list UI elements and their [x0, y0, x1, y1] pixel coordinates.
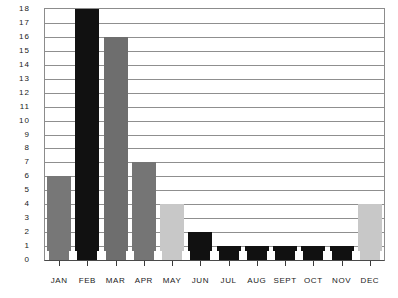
bar-base-notch — [97, 251, 99, 260]
bar-base-notch — [154, 251, 156, 260]
y-axis-tick-label: 5 — [0, 186, 30, 194]
y-axis-tick-label: 9 — [0, 131, 30, 139]
x-axis-tick — [370, 261, 371, 266]
bar-base-notch — [69, 251, 71, 260]
bar-base-notch — [323, 251, 325, 260]
bar-base-notch — [160, 251, 162, 260]
y-axis-tick-label: 17 — [0, 19, 30, 27]
x-axis-tick-label: DEC — [350, 276, 390, 285]
bar-slot — [217, 9, 241, 260]
y-axis-tick-label: 2 — [0, 228, 30, 236]
bar-slot — [245, 9, 269, 260]
bar-base-notch — [47, 251, 49, 260]
bar-base-notch — [217, 251, 219, 260]
bar-base-notch — [210, 251, 212, 260]
bar[interactable] — [132, 162, 156, 260]
bar-base-notch — [132, 251, 134, 260]
y-axis-tick-label: 15 — [0, 47, 30, 55]
bar-slot — [301, 9, 325, 260]
bar[interactable] — [217, 246, 241, 260]
x-axis-tick — [172, 261, 173, 266]
bar-base-notch — [188, 251, 190, 260]
y-axis-tick-label: 10 — [0, 117, 30, 125]
x-axis-tick — [257, 261, 258, 266]
bar-slot — [75, 9, 99, 260]
bar[interactable] — [358, 204, 382, 260]
y-axis-tick-label: 18 — [0, 5, 30, 13]
bar-base-notch — [295, 251, 297, 260]
x-axis-tick — [59, 261, 60, 266]
y-axis-tick-label: 13 — [0, 75, 30, 83]
bar[interactable] — [104, 37, 128, 260]
y-axis-tick-label: 3 — [0, 214, 30, 222]
bar[interactable] — [330, 246, 354, 260]
bar-slot — [330, 9, 354, 260]
bar-slot — [188, 9, 212, 260]
bar-slot — [47, 9, 71, 260]
bar-slot — [358, 9, 382, 260]
bar-base-notch — [245, 251, 247, 260]
bar-base-notch — [380, 251, 382, 260]
x-axis-tick — [116, 261, 117, 266]
bar-base-notch — [104, 251, 106, 260]
y-axis-tick-label: 12 — [0, 89, 30, 97]
bar[interactable] — [301, 246, 325, 260]
y-axis-tick-label: 7 — [0, 158, 30, 166]
bar[interactable] — [245, 246, 269, 260]
bar-base-notch — [352, 251, 354, 260]
bar[interactable] — [47, 176, 71, 260]
y-axis-tick-label: 1 — [0, 242, 30, 250]
bar-base-notch — [126, 251, 128, 260]
bar-base-notch — [75, 251, 77, 260]
y-axis-tick-label: 4 — [0, 200, 30, 208]
bar-base-notch — [301, 251, 303, 260]
x-axis-tick — [229, 261, 230, 266]
bar-slot — [104, 9, 128, 260]
x-axis-tick — [200, 261, 201, 266]
bar[interactable] — [188, 232, 212, 260]
bar-series — [45, 9, 384, 260]
bar-base-notch — [267, 251, 269, 260]
x-axis-tick — [342, 261, 343, 266]
y-axis-tick-label: 0 — [0, 256, 30, 264]
x-axis-tick — [313, 261, 314, 266]
y-axis-tick-label: 14 — [0, 61, 30, 69]
bar-base-notch — [273, 251, 275, 260]
bar-slot — [132, 9, 156, 260]
y-axis-tick-label: 11 — [0, 103, 30, 111]
bar[interactable] — [273, 246, 297, 260]
bar[interactable] — [160, 204, 184, 260]
bar-chart: 0123456789101112131415161718 JANFEBMARAP… — [0, 0, 398, 298]
bar-base-notch — [330, 251, 332, 260]
x-axis-tick — [285, 261, 286, 266]
bar-slot — [160, 9, 184, 260]
bar-base-notch — [182, 251, 184, 260]
x-axis-tick — [87, 261, 88, 266]
bar[interactable] — [75, 9, 99, 260]
y-axis-tick-label: 6 — [0, 172, 30, 180]
y-axis-tick-label: 16 — [0, 33, 30, 41]
bar-base-notch — [239, 251, 241, 260]
bar-base-notch — [358, 251, 360, 260]
y-axis-tick-label: 8 — [0, 144, 30, 152]
x-axis-tick — [144, 261, 145, 266]
bar-slot — [273, 9, 297, 260]
